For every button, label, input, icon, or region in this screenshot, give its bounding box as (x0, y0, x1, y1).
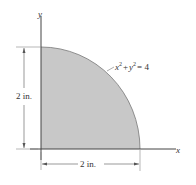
arrowhead-up (23, 48, 26, 53)
equation-leader (107, 67, 114, 71)
arrowhead-right (134, 163, 139, 166)
circle-equation: x2+y2= 4 (114, 61, 149, 72)
x-axis-label: x (175, 145, 180, 155)
quarter-circle-diagram: y x 2 in. 2 in. x2+y2= 4 (0, 0, 196, 185)
width-label: 2 in. (80, 159, 96, 169)
y-axis-label: y (37, 9, 42, 19)
arrowhead-left (42, 163, 47, 166)
height-label: 2 in. (16, 91, 32, 101)
arrowhead-down (23, 143, 26, 148)
